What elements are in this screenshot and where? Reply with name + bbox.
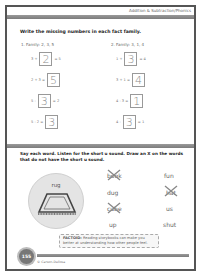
equation-left: 4 - 3 = xyxy=(116,99,128,103)
equation-left: 2 + 3 = xyxy=(31,78,45,82)
word-up[interactable]: up xyxy=(109,221,117,228)
family-1-label: 1. Family: 2, 3, 5 xyxy=(21,42,54,47)
equation-right: = 4 xyxy=(139,57,145,61)
answer-box[interactable]: 2 xyxy=(39,52,52,66)
answer-box[interactable]: 4 xyxy=(132,73,145,87)
word-shut[interactable]: shut xyxy=(163,221,176,228)
word-dug[interactable]: dug xyxy=(107,189,118,196)
answer-box[interactable]: 1 xyxy=(130,94,143,108)
header-bar xyxy=(7,15,194,19)
footer-bar xyxy=(37,254,189,257)
equation: 2 + 3 = 5 xyxy=(31,73,60,87)
answer-box[interactable]: 5 xyxy=(47,73,60,87)
equation: 5 - 2 = 3 xyxy=(31,115,58,129)
factoid-box: FACTOID: Reading storybooks can make you… xyxy=(59,234,159,248)
x-mark-icon xyxy=(164,185,178,197)
equation-left: 4 - xyxy=(116,120,121,124)
word-us[interactable]: us xyxy=(166,205,173,212)
equation: 5 - 3 = 2 xyxy=(31,94,59,108)
example-circle: rug xyxy=(28,173,84,229)
equation-right: = 1 xyxy=(138,120,144,124)
page-number-badge: 155 xyxy=(19,249,34,264)
answer-box[interactable]: 3 xyxy=(123,115,136,129)
equation-left: 3 + xyxy=(31,57,37,61)
x-mark-icon xyxy=(107,169,121,181)
equation: 3 + 1 = 4 xyxy=(116,73,145,87)
equation-left: 5 - 2 = xyxy=(31,120,43,124)
family-2-label: 2. Family: 3, 1, 4 xyxy=(111,42,144,47)
word-fun[interactable]: fun xyxy=(164,172,174,179)
header-title: Addition & Subtraction/Phonics xyxy=(129,8,191,13)
answer-box[interactable]: 3 xyxy=(38,94,51,108)
factoid-label: FACTOID: xyxy=(63,236,82,240)
section1-instruction: Write the missing numbers in each fact f… xyxy=(20,29,190,35)
equation-right: = 5 xyxy=(54,57,60,61)
equation-right: = 2 xyxy=(53,99,59,103)
section-divider xyxy=(7,144,194,148)
section2-instruction: Say each word. Listen for the short u so… xyxy=(20,151,192,162)
x-mark-icon xyxy=(107,202,121,214)
equation: 1 + 3 = 4 xyxy=(116,52,146,66)
copyright-text: © Carson-Dellosa xyxy=(37,260,65,264)
worksheet-page: Addition & Subtraction/Phonics Write the… xyxy=(5,5,196,271)
answer-box[interactable]: 3 xyxy=(124,52,137,66)
equation-left: 3 + 1 = xyxy=(116,78,130,82)
rug-icon xyxy=(29,174,85,230)
equation-left: 1 + xyxy=(116,57,122,61)
equation: 4 - 3 = 1 xyxy=(116,94,143,108)
equation-left: 5 - xyxy=(31,99,36,103)
equation: 4 - 3 = 1 xyxy=(116,115,144,129)
answer-box[interactable]: 3 xyxy=(45,115,58,129)
equation: 3 + 2 = 5 xyxy=(31,52,61,66)
